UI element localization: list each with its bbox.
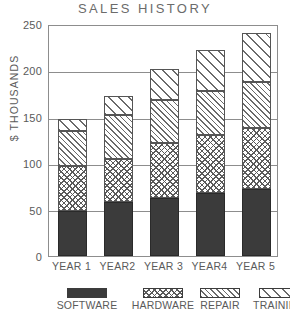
chart-title: SALES HISTORY [0,1,290,16]
plot-area [48,25,278,257]
bar-group[interactable] [150,26,179,256]
bar-segment-hardware[interactable] [196,135,225,193]
legend-swatch-training [259,288,290,298]
bar-segment-hardware[interactable] [104,159,133,203]
bar-group[interactable] [242,26,271,256]
legend-swatch-repair [200,288,240,298]
bar-group[interactable] [104,26,133,256]
legend-item-repair[interactable]: REPAIR [189,288,251,311]
y-tick-100: 100 [2,158,42,170]
legend-item-software[interactable]: SOFTWARE [48,288,126,311]
legend-label: REPAIR [189,299,251,311]
legend-swatch-software [67,288,107,298]
y-axis-title: $ THOUSANDS [8,38,20,158]
bar-segment-software[interactable] [150,198,179,256]
bar-segment-training[interactable] [58,119,87,131]
legend-label: TRAINING [244,299,290,311]
bar-segment-repair[interactable] [58,131,87,166]
bars-layer [49,26,277,256]
bar-segment-software[interactable] [104,202,133,256]
bar-segment-repair[interactable] [242,82,271,128]
legend-item-training[interactable]: TRAINING [244,288,290,311]
bar-segment-repair[interactable] [196,91,225,136]
sales-history-chart: SALES HISTORY 250 200 150 100 50 0 $ THO… [0,0,290,319]
bar-segment-repair[interactable] [104,115,133,159]
bar-group[interactable] [58,26,87,256]
bar-segment-software[interactable] [58,211,87,256]
bar-segment-training[interactable] [196,50,225,91]
bar-segment-training[interactable] [150,69,179,101]
bar-segment-software[interactable] [242,189,271,256]
bar-segment-training[interactable] [242,33,271,81]
chart-legend: SOFTWAREHARDWAREREPAIRTRAINING [0,288,290,318]
bar-segment-training[interactable] [104,96,133,115]
bar-segment-hardware[interactable] [150,143,179,198]
bar-segment-hardware[interactable] [58,166,87,211]
y-tick-50: 50 [2,205,42,217]
legend-swatch-hardware [143,288,183,298]
bar-group[interactable] [196,26,225,256]
y-tick-250: 250 [2,19,42,31]
bar-segment-repair[interactable] [150,100,179,143]
bar-segment-software[interactable] [196,193,225,256]
legend-label: SOFTWARE [48,299,126,311]
y-tick-0: 0 [2,251,42,263]
bar-segment-hardware[interactable] [242,128,271,189]
x-tick-label: YEAR 5 [229,260,282,272]
